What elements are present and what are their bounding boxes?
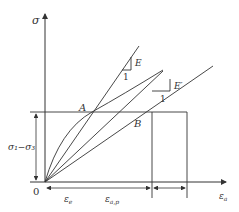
slope-E-label: E [134,58,142,68]
x-axis-label: εa [219,191,228,202]
y-axis-label: σ [32,14,40,27]
modulus-E-prime-line [45,66,213,182]
strain-e-label: εe [64,194,73,205]
slope-E-run-label: 1 [123,72,129,82]
point-A-label: A [78,102,86,113]
origin-label: 0 [33,186,39,197]
strain-ap-label: εa,p [105,194,119,206]
stress-strain-diagram: σ 0 εa A B E 1 E′ 1 σ₁−σ₃ εe εa,p [0,0,239,212]
modulus-E-line [45,46,139,182]
secant-line [45,71,163,182]
diagram-svg: σ 0 εa A B E 1 E′ 1 σ₁−σ₃ εe εa,p [0,0,239,212]
stress-dimension-label: σ₁−σ₃ [8,142,35,152]
slope-E-prime-run-label: 1 [160,94,166,104]
slope-E-prime-label: E′ [173,81,183,91]
point-B-label: B [133,118,141,129]
slope-triangle-E-prime [152,79,170,91]
